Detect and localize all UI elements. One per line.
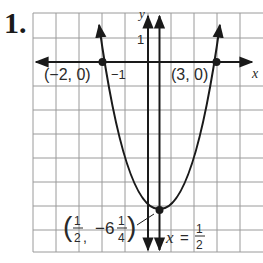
root-left-point: [99, 58, 107, 66]
vertex-point: [156, 206, 164, 214]
root-right-point: [213, 58, 221, 66]
x-tick-label: −1: [111, 67, 126, 82]
svg-text:2: 2: [196, 238, 203, 252]
svg-text:1: 1: [196, 222, 203, 236]
svg-text:1: 1: [74, 214, 81, 228]
parabola-graph: y 1 x −1 (−2, 0) (3, 0) ( 1 2 , −6 1 4 )…: [0, 0, 263, 263]
svg-text:): ): [127, 211, 136, 242]
x-axis-label: x: [251, 66, 259, 81]
svg-text:4: 4: [118, 231, 125, 245]
y-tick-label: 1: [137, 32, 144, 47]
root-right-label: (3, 0): [171, 66, 208, 83]
svg-text:=: =: [180, 229, 189, 246]
svg-text:,: ,: [83, 229, 87, 245]
root-left-label: (−2, 0): [44, 66, 91, 83]
svg-text:−6: −6: [95, 219, 114, 238]
svg-text:(: (: [63, 211, 73, 242]
svg-text:2: 2: [74, 231, 81, 245]
svg-text:1: 1: [118, 214, 125, 228]
vertex-leader: [137, 214, 154, 225]
svg-text:x: x: [165, 228, 174, 247]
y-axis-label: y: [137, 6, 145, 21]
